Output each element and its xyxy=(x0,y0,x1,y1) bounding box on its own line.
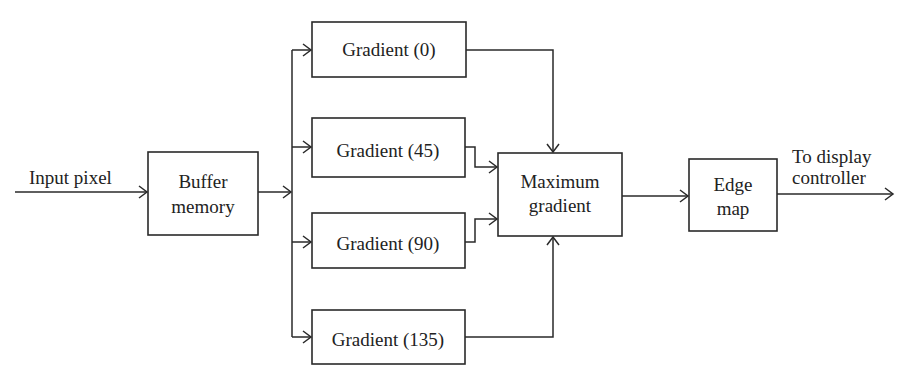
output-label-line2: controller xyxy=(792,167,867,188)
gradient-45-to-max-arrow xyxy=(465,147,497,173)
edge-map-label-line1: Edge xyxy=(713,174,752,195)
gradient-90-to-max-arrow xyxy=(465,213,497,242)
maximum-label-line1: Maximum xyxy=(520,171,599,192)
gradient-90-block: Gradient (90) xyxy=(312,213,465,268)
gradient-0-to-max-arrow xyxy=(466,50,559,152)
gradient-135-label: Gradient (135) xyxy=(332,329,444,351)
gradient-0-block: Gradient (0) xyxy=(312,22,466,77)
buffer-memory-block: Buffer memory xyxy=(148,152,258,235)
edge-map-label-line2: map xyxy=(717,198,750,219)
gradient-90-label: Gradient (90) xyxy=(337,233,440,255)
gradient-45-block: Gradient (45) xyxy=(312,118,465,177)
maximum-gradient-block: Maximum gradient xyxy=(498,153,622,236)
output-label-line1: To display xyxy=(792,146,872,167)
max-to-edge-map-arrow xyxy=(622,190,688,202)
buffer-label-line1: Buffer xyxy=(178,171,228,192)
gradient-45-label: Gradient (45) xyxy=(337,140,440,162)
buffer-to-bus-arrow xyxy=(258,186,291,198)
gradient-135-block: Gradient (135) xyxy=(312,310,465,364)
gradient-135-to-max-arrow xyxy=(465,237,559,337)
output-arrow xyxy=(777,188,893,200)
bus-branch-arrows xyxy=(292,44,311,343)
maximum-label-line2: gradient xyxy=(529,195,592,216)
gradient-0-label: Gradient (0) xyxy=(342,39,435,61)
buffer-label-line2: memory xyxy=(171,196,235,217)
input-pixel-label: Input pixel xyxy=(29,167,112,188)
edge-map-block: Edge map xyxy=(689,159,777,231)
edge-detection-block-diagram: Input pixel Buffer memory Gradient (0) G… xyxy=(0,0,911,386)
